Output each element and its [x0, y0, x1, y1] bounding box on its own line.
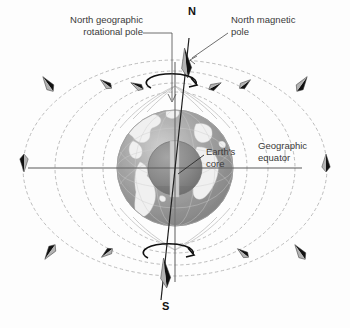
south-magnetic-arrowhead: [159, 258, 172, 289]
leader-north-magnetic: [192, 33, 228, 58]
label-geographic-equator-line1: Geographic: [258, 140, 307, 151]
label-geographic-equator: Geographic equator: [258, 140, 338, 163]
field-arrow-left-outer-upper: [39, 74, 56, 94]
field-arrow-left-outer-lower: [41, 242, 58, 262]
label-north-magnetic-line2: pole: [231, 26, 249, 37]
label-north-geographic-line1: North geographic: [70, 14, 143, 25]
label-earths-core: Earth's core: [206, 146, 266, 169]
label-geographic-equator-line2: equator: [258, 152, 290, 163]
label-north-geographic-rotational-pole: North geographic rotational pole: [18, 14, 143, 37]
field-arrow-right-inner-upper: [207, 80, 223, 93]
earth-magnetic-field-diagram: [0, 0, 350, 328]
label-north-geographic-line2: rotational pole: [83, 26, 143, 37]
label-north-magnetic-pole: North magnetic pole: [231, 14, 341, 37]
field-arrow-right-mid-lower: [235, 246, 250, 260]
field-arrow-right-outer-lower: [291, 242, 308, 262]
label-north-magnetic-line1: North magnetic: [231, 14, 295, 25]
label-south-pole-letter: S: [162, 300, 169, 312]
label-earths-core-line2: core: [206, 158, 224, 169]
field-arrow-left-outer-equator: [20, 154, 28, 172]
field-arrow-right-outer-upper: [293, 74, 310, 94]
label-earths-core-line1: Earth's: [206, 146, 235, 157]
label-north-pole-letter: N: [188, 5, 196, 17]
